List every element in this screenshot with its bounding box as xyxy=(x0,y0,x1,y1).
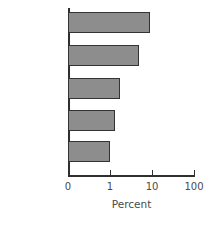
x-axis-tick-label-10: 10 xyxy=(137,181,167,193)
x-axis-tick-100 xyxy=(194,170,195,176)
x-axis-tick-10 xyxy=(152,170,153,176)
x-axis-tick-0 xyxy=(68,170,69,176)
bar-leasing xyxy=(68,110,115,131)
x-axis-tick-label-100: 100 xyxy=(179,181,209,193)
x-axis-title: Percent xyxy=(68,198,195,210)
x-axis-tick-1 xyxy=(110,170,111,176)
bar-real-estate xyxy=(68,78,120,99)
bar-chart: 0 1 10 100 Credit Insurance Real estate … xyxy=(0,0,211,226)
x-axis-line xyxy=(68,175,195,177)
bar-insurance xyxy=(68,45,139,66)
x-axis-tick-label-0: 0 xyxy=(53,181,83,193)
bar-banks xyxy=(68,141,110,162)
x-axis-tick-label-1: 1 xyxy=(95,181,125,193)
plot-area: 0 1 10 100 Credit Insurance Real estate … xyxy=(0,0,211,226)
bar-credit xyxy=(68,12,150,33)
